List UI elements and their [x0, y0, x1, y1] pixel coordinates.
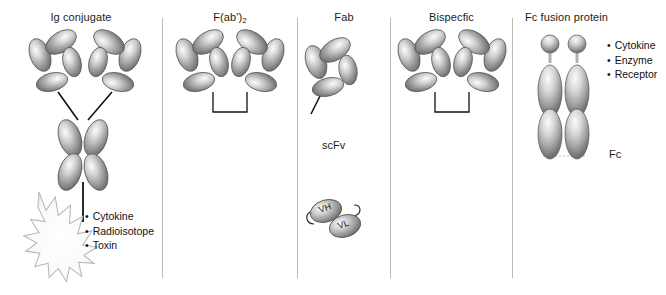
bullet-toxin: Toxin: [85, 238, 154, 253]
fab-single-arm: [301, 33, 359, 100]
fc-region: [54, 117, 113, 194]
bullet-cytokine: Cytokine: [607, 38, 657, 53]
scfv-module: VH VL: [307, 196, 364, 241]
fc-fusion-bullet-list: Cytokine Enzyme Receptor: [607, 38, 657, 82]
antibody-formats-figure: Ig conjugate: [0, 0, 666, 295]
bispecific-arm-right: [451, 25, 511, 95]
fab2-arm-right: [229, 25, 289, 95]
fab-arm-right: [86, 25, 146, 95]
scfv-linker-right: [354, 205, 360, 216]
ig-conjugate-bullet-list: Cytokine Radioisotope Toxin: [85, 209, 154, 253]
fc-chain-right: [565, 65, 589, 159]
scfv-sublabel: scFv: [322, 139, 345, 151]
bispecific-graphic: [391, 0, 531, 295]
bispecific-hinge-link: [435, 92, 469, 112]
bullet-radioisotope: Radioisotope: [85, 224, 154, 239]
bullet-enzyme: Enzyme: [607, 53, 657, 68]
fusion-partner-head-left: [541, 35, 559, 53]
fab2-arm-left: [172, 25, 232, 95]
fc-chain-left: [538, 65, 562, 159]
hinge-link-right: [88, 92, 112, 120]
bullet-receptor: Receptor: [607, 67, 657, 82]
fab2-hinge-link: [213, 92, 247, 112]
bullet-cytokine: Cytokine: [85, 209, 154, 224]
bispecific-arm-left: [394, 25, 454, 95]
hinge-link-left: [58, 92, 78, 120]
fc-region-label: Fc: [609, 148, 621, 160]
fusion-partner-head-right: [568, 35, 586, 53]
fab-arm-left: [25, 25, 85, 95]
